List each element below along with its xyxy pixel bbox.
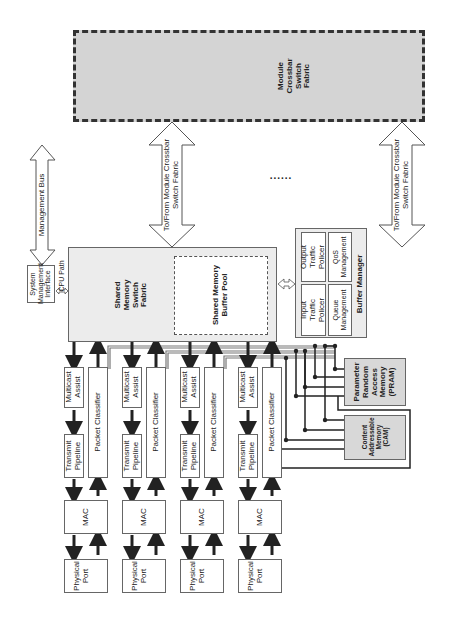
shared-memory-switch-fabric-label: Shared Memory Switch Fabric bbox=[114, 265, 149, 325]
port-3-multicast-assist-label: Multicast Assist bbox=[181, 367, 199, 407]
output-traffic-policer-label: Output Traffic Policer bbox=[300, 235, 326, 280]
port-2-mac-label: MAC bbox=[140, 502, 149, 532]
buffer-manager-link-arrow bbox=[278, 279, 295, 289]
port-2-packet-classifier-label: Packet Classifier bbox=[152, 372, 161, 472]
port-1-mac-label: MAC bbox=[82, 502, 91, 532]
port-4-transmit-pipeline-label: Transmit Pipeline bbox=[239, 435, 257, 477]
port-4-packet-classifier-label: Packet Classifier bbox=[268, 372, 277, 472]
crossbar-link-label-right: To/From Module Crossbar Switch Fabric bbox=[393, 130, 411, 240]
management-bus-label: Management Bus bbox=[38, 165, 47, 245]
port-4-multicast-assist-label: Multicast Assist bbox=[239, 367, 257, 407]
port-3-mac-label: MAC bbox=[198, 502, 207, 532]
port-3-transmit-pipeline-label: Transmit Pipeline bbox=[181, 435, 199, 477]
port-1-physical-port-label: Physical Port bbox=[73, 558, 91, 594]
input-traffic-policer-label: Input Traffic Policer bbox=[300, 288, 326, 333]
port-1-multicast-assist-label: Multicast Assist bbox=[65, 367, 83, 407]
port-2-transmit-pipeline-label: Transmit Pipeline bbox=[123, 435, 141, 477]
cam-label: Content Addressable Memory (CAM) bbox=[361, 413, 390, 461]
qos-management-label: QoS Management bbox=[332, 232, 347, 282]
shared-memory-buffer-pool-label: Shared Memory Buffer Pool bbox=[212, 255, 230, 335]
port-2-physical-port-label: Physical Port bbox=[131, 558, 149, 594]
port-4-physical-port-label: Physical Port bbox=[247, 558, 265, 594]
port-1-packet-classifier-label: Packet Classifier bbox=[94, 372, 103, 472]
system-management-interface-label: System Management Interface bbox=[29, 264, 52, 304]
port-4-mac-label: MAC bbox=[256, 502, 265, 532]
pram-label: Parameter Random Access Memory (PRAM) bbox=[353, 358, 397, 406]
port-1-transmit-pipeline-label: Transmit Pipeline bbox=[65, 435, 83, 477]
port-2-multicast-assist-label: Multicast Assist bbox=[123, 367, 141, 407]
port-3-physical-port-label: Physical Port bbox=[189, 558, 207, 594]
buffer-manager-title: Buffer Manager bbox=[356, 244, 365, 324]
port-3-packet-classifier-label: Packet Classifier bbox=[210, 372, 219, 472]
queue-management-label: Queue Management bbox=[332, 285, 347, 335]
crossbar-link-label-left: To/From Module Crossbar Switch Fabric bbox=[163, 130, 181, 240]
more-modules-ellipsis: ...... bbox=[270, 170, 293, 181]
cpu-path-label: CPU Path bbox=[58, 256, 66, 296]
